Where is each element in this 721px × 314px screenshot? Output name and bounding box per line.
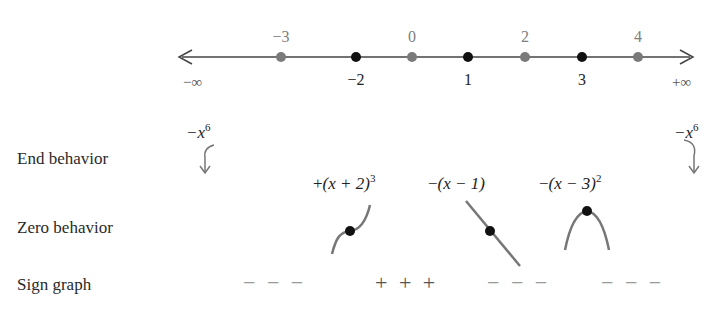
sign-interval: + + + xyxy=(375,270,438,296)
pos-infinity-label: +∞ xyxy=(672,74,691,91)
zero-behavior-label: Zero behavior xyxy=(17,218,113,238)
zero-point xyxy=(351,52,361,62)
tick-label: 3 xyxy=(578,71,586,89)
sign-interval: − − − xyxy=(601,270,664,296)
parabola-curve xyxy=(565,211,609,250)
sign-interval: − − − xyxy=(487,270,550,296)
sign-interval: − − − xyxy=(243,270,306,296)
tick-label: −2 xyxy=(347,71,364,89)
left-end-term: −x6 xyxy=(186,121,211,143)
tick-label: 2 xyxy=(521,28,529,46)
test-point xyxy=(276,52,286,62)
test-point xyxy=(633,52,643,62)
zero-point xyxy=(463,52,473,62)
test-point xyxy=(407,52,417,62)
factor-label: −(x − 1) xyxy=(428,172,485,194)
zero-point xyxy=(577,52,587,62)
tick-label: 1 xyxy=(464,71,472,89)
tick-label: −3 xyxy=(272,28,289,46)
tick-label: 0 xyxy=(408,28,416,46)
sign-graph-label: Sign graph xyxy=(17,275,91,295)
neg-infinity-label: −∞ xyxy=(183,74,202,91)
tick-label: 4 xyxy=(634,28,642,46)
end-behavior-label: End behavior xyxy=(17,149,108,169)
factor-label: +(x + 2)3 xyxy=(313,172,375,194)
diagram-canvas xyxy=(0,0,721,314)
test-point xyxy=(520,52,530,62)
right-end-term: −x6 xyxy=(674,121,699,143)
factor-label: −(x − 3)2 xyxy=(539,172,601,194)
